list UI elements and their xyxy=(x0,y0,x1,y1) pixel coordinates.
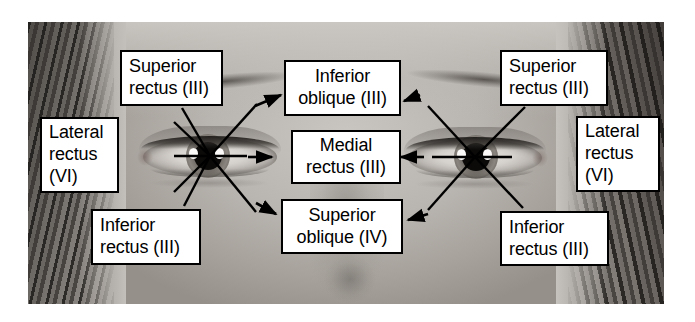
label-line: (VI) xyxy=(585,165,614,187)
leader-right-superior-oblique xyxy=(428,157,475,210)
label-inferior-oblique[interactable]: Inferior oblique (III) xyxy=(284,60,401,116)
label-line: rectus xyxy=(585,143,633,165)
leader-left-lower-outer xyxy=(174,156,210,192)
label-line: Lateral xyxy=(585,121,639,143)
label-medial-rectus[interactable]: Medial rectus (III) xyxy=(291,130,401,184)
leader-right-inferior-oblique xyxy=(428,106,475,157)
label-line: rectus (III) xyxy=(129,78,209,100)
label-line: rectus xyxy=(49,144,97,166)
label-line: Inferior xyxy=(315,66,370,88)
label-line: Superior xyxy=(129,56,196,78)
label-line: Lateral xyxy=(49,122,103,144)
label-line: oblique (III) xyxy=(298,88,387,110)
label-line: Medial xyxy=(320,135,372,157)
arrow-inferior-oblique-left xyxy=(255,95,281,106)
figure-root: Superior rectus (III) Lateral rectus (VI… xyxy=(0,0,695,322)
label-line: rectus (III) xyxy=(100,237,180,259)
label-line: Superior xyxy=(509,56,576,78)
label-left-superior-rectus[interactable]: Superior rectus (III) xyxy=(120,50,223,106)
leader-right-inferior-rectus xyxy=(475,157,523,208)
arrow-superior-oblique-right xyxy=(408,214,428,220)
label-line: rectus (III) xyxy=(509,78,589,100)
label-right-lateral-rectus[interactable]: Lateral rectus (VI) xyxy=(576,116,660,192)
arrow-inferior-oblique-right xyxy=(404,95,420,101)
label-line: rectus (III) xyxy=(306,157,386,179)
label-line: oblique (IV) xyxy=(297,227,388,249)
leader-right-superior-rectus xyxy=(475,107,525,157)
label-left-lateral-rectus[interactable]: Lateral rectus (VI) xyxy=(40,117,119,193)
leader-left-inferior-rectus xyxy=(184,156,210,206)
label-left-inferior-rectus[interactable]: Inferior rectus (III) xyxy=(91,209,201,265)
label-line: Inferior xyxy=(509,217,564,239)
leader-left-superior-oblique xyxy=(210,156,256,212)
arrow-superior-oblique-left xyxy=(256,203,276,214)
label-line: (VI) xyxy=(49,166,78,188)
label-right-superior-rectus[interactable]: Superior rectus (III) xyxy=(500,50,608,106)
label-right-inferior-rectus[interactable]: Inferior rectus (III) xyxy=(500,211,609,266)
label-line: Superior xyxy=(308,205,375,227)
label-line: Inferior xyxy=(100,215,155,237)
leader-left-inferior-oblique xyxy=(210,104,257,156)
label-superior-oblique[interactable]: Superior oblique (IV) xyxy=(281,199,403,254)
label-line: rectus (III) xyxy=(509,239,589,261)
